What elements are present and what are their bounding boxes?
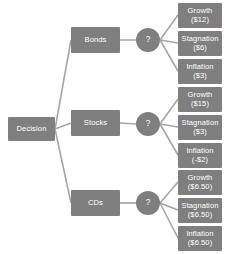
edge-bonds-chance-to-bonds-stagnation <box>160 40 178 43</box>
edge-stocks-chance-to-stocks-inflation <box>160 124 178 155</box>
node-branch-cds-label: CDs <box>88 199 103 207</box>
edge-root-to-stocks <box>55 123 71 129</box>
chance-question-mark-cds: ? <box>146 199 151 208</box>
node-chance-stocks[interactable]: ? <box>136 112 160 136</box>
node-outcome-bonds-inflation-value: ($3) <box>193 72 207 80</box>
node-decision-root[interactable]: Decision <box>8 117 55 141</box>
node-branch-stocks-label: Stocks <box>84 119 107 127</box>
decision-tree-diagram: DecisionBonds?Growth($12)Stagnation($6)I… <box>0 0 226 254</box>
node-outcome-stocks-growth-value: ($15) <box>191 100 209 108</box>
node-decision-root-label: Decision <box>17 125 47 133</box>
chance-question-mark-stocks: ? <box>146 120 151 129</box>
node-branch-stocks[interactable]: Stocks <box>71 110 120 136</box>
node-outcome-cds-growth-value: ($6.50) <box>188 183 212 191</box>
node-outcome-cds-growth[interactable]: Growth($6.50) <box>178 170 222 195</box>
node-outcome-cds-stagnation-value: ($6.50) <box>188 211 212 219</box>
node-outcome-bonds-growth[interactable]: Growth($12) <box>178 3 222 28</box>
edge-bonds-chance-to-bonds-inflation <box>160 40 178 71</box>
node-branch-bonds-label: Bonds <box>84 36 106 44</box>
node-outcome-cds-inflation[interactable]: Inflation($6.50) <box>178 226 222 251</box>
node-outcome-stocks-inflation-value: (-$2) <box>192 156 208 164</box>
node-outcome-bonds-stagnation[interactable]: Stagnation($6) <box>178 31 222 56</box>
node-outcome-stocks-inflation[interactable]: Inflation(-$2) <box>178 143 222 168</box>
node-branch-cds[interactable]: CDs <box>71 190 120 216</box>
node-outcome-stocks-stagnation[interactable]: Stagnation($3) <box>178 115 222 140</box>
edge-root-to-bonds <box>55 40 71 129</box>
node-chance-bonds[interactable]: ? <box>136 28 160 52</box>
edge-stocks-to-stocks-chance <box>120 123 136 124</box>
edge-stocks-chance-to-stocks-stagnation <box>160 124 178 127</box>
node-outcome-bonds-stagnation-value: ($6) <box>193 44 207 52</box>
edge-bonds-chance-to-bonds-growth <box>160 15 178 40</box>
edge-stocks-chance-to-stocks-growth <box>160 99 178 124</box>
node-outcome-stocks-growth[interactable]: Growth($15) <box>178 87 222 112</box>
node-outcome-stocks-stagnation-value: ($3) <box>193 128 207 136</box>
edge-root-to-cds <box>55 129 71 203</box>
chance-question-mark-bonds: ? <box>146 36 151 45</box>
node-outcome-cds-stagnation[interactable]: Stagnation($6.50) <box>178 198 222 223</box>
node-chance-cds[interactable]: ? <box>136 191 160 215</box>
node-outcome-bonds-inflation[interactable]: Inflation($3) <box>178 59 222 84</box>
node-outcome-bonds-growth-value: ($12) <box>191 16 209 24</box>
node-outcome-cds-inflation-value: ($6.50) <box>188 239 212 247</box>
node-branch-bonds[interactable]: Bonds <box>71 27 120 53</box>
edge-cds-chance-to-cds-growth <box>160 182 178 203</box>
